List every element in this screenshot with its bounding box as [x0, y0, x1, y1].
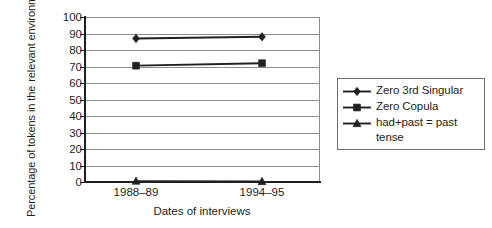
data-point-diamond — [133, 34, 140, 42]
triangle-marker-icon — [342, 116, 372, 131]
y-axis-title-line-1: Percentage of tokens in the — [25, 86, 38, 217]
y-axis-tick-labels: 1009080706050403020100 — [56, 10, 82, 190]
series-layer — [84, 17, 320, 182]
series-line — [136, 63, 262, 65]
y-axis-tick-label: 80 — [56, 44, 82, 56]
y-axis-title: Percentage of tokens in the relevant env… — [14, 6, 48, 192]
x-axis-tick-label: 1994–95 — [240, 185, 285, 199]
series-square — [133, 60, 266, 69]
legend-item: Zero 3rd Singular — [342, 83, 480, 99]
line-chart-figure: Percentage of tokens in the relevant env… — [0, 0, 492, 228]
y-axis-tick-label: 90 — [56, 28, 82, 40]
data-point-diamond — [259, 33, 266, 41]
legend-item-label: Zero Copula — [376, 99, 438, 114]
chart-legend: Zero 3rd SingularZero Copulahad+past = p… — [337, 78, 485, 150]
y-axis-tick-label: 30 — [56, 127, 82, 139]
diamond-marker-icon — [342, 84, 372, 99]
legend-item: had+past = past tense — [342, 115, 480, 144]
x-axis-title: Dates of interviews — [84, 204, 320, 218]
x-axis-tick-labels: 1988–891994–95 — [84, 185, 320, 201]
series-line — [136, 37, 262, 39]
y-axis-tick-label: 50 — [56, 94, 82, 106]
legend-item-label: had+past = past tense — [376, 115, 457, 144]
data-point-square — [259, 60, 266, 67]
y-axis-tick-label: 60 — [56, 77, 82, 89]
y-axis-tick-label: 70 — [56, 61, 82, 73]
y-axis-tick-label: 0 — [56, 176, 82, 188]
y-axis-tick-label: 100 — [56, 11, 82, 23]
series-triangle — [132, 177, 266, 185]
y-axis-title-line-2: relevant environment — [25, 0, 38, 82]
y-axis-tick-label: 10 — [56, 160, 82, 172]
y-axis-tick-label: 20 — [56, 143, 82, 155]
legend-item: Zero Copula — [342, 99, 480, 115]
data-point-square — [133, 62, 140, 69]
y-axis-tick-label: 40 — [56, 110, 82, 122]
square-marker-icon — [342, 100, 372, 115]
legend-item-label: Zero 3rd Singular — [376, 83, 463, 98]
series-diamond — [133, 33, 266, 43]
x-axis-tick-label: 1988–89 — [114, 185, 159, 199]
